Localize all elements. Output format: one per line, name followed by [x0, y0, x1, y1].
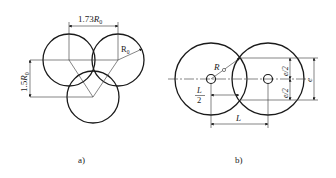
half-L-denominator: 2 — [197, 95, 201, 105]
radius-marker — [222, 68, 225, 71]
half-L-numerator: L — [196, 85, 202, 95]
figure-a: 1.73R0 1.5R0 R0 a) — [19, 14, 144, 165]
caption-a: a) — [78, 155, 85, 165]
caption-b: b) — [235, 155, 243, 165]
figure-b: R L 2 L e/2 e/2 e b) — [168, 43, 318, 165]
radius-label: R — [213, 62, 220, 72]
radius-label: R0 — [121, 44, 130, 55]
dim-label-e: e — [304, 78, 314, 82]
dim-label-e-half-top: e/2 — [281, 66, 290, 76]
dim-label-1-5R0: 1.5R0 — [19, 72, 30, 92]
diagram-canvas: 1.73R0 1.5R0 R0 a) R L 2 — [0, 0, 336, 178]
dim-label-L: L — [235, 113, 241, 123]
dim-label-1-73R0: 1.73R0 — [78, 14, 102, 25]
dim-label-e-half-bottom: e/2 — [281, 88, 290, 98]
